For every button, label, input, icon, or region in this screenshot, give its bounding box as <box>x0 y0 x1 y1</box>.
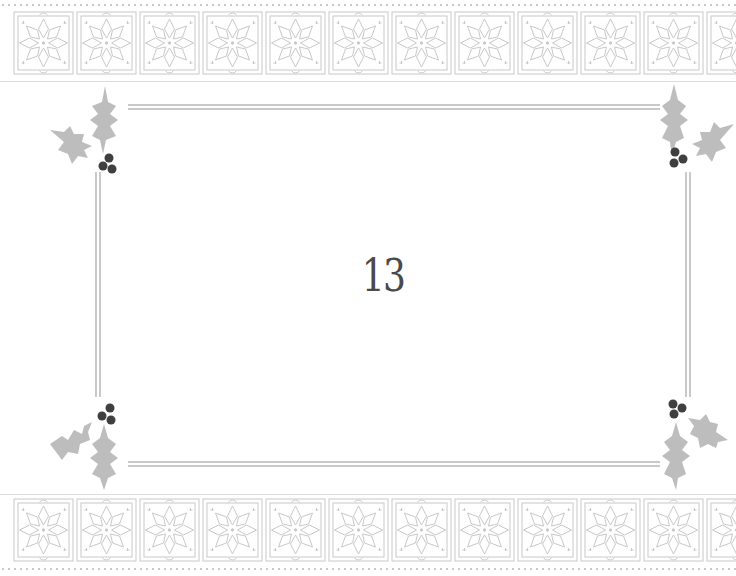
bottom-dotted-border <box>0 568 736 570</box>
frame-top-line <box>128 104 660 110</box>
holly-icon <box>656 84 736 176</box>
bottom-band-rule <box>0 494 736 495</box>
day-number: 13 <box>330 250 437 301</box>
top-band-rule <box>0 81 736 82</box>
top-dotted-border <box>0 4 736 6</box>
frame-left-line <box>95 172 101 397</box>
frame-right-line <box>685 172 691 397</box>
holly-icon <box>656 396 736 490</box>
holly-icon <box>48 84 138 176</box>
holly-icon <box>48 398 138 490</box>
bottom-snowflake-band <box>0 497 736 567</box>
frame-bottom-line <box>128 461 660 467</box>
top-snowflake-band <box>0 10 736 80</box>
